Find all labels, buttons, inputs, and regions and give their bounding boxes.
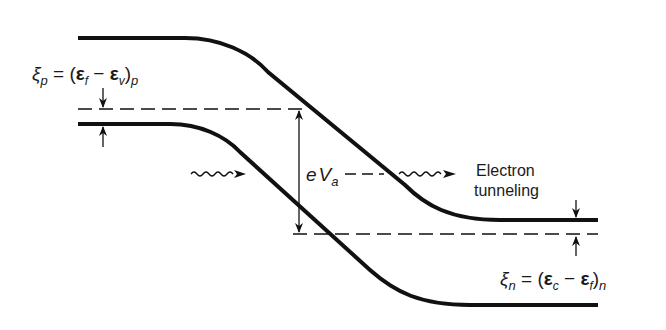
band-diagram: ξp = (εf − εv)p ξn = (εc − εf)n eVa Elec… — [0, 0, 666, 330]
xi-p-label: ξp = (εf − εv)p — [32, 63, 138, 88]
tunneling-electron-wave-icon — [399, 170, 456, 178]
electron-tunneling-label: Electron tunneling — [474, 162, 539, 199]
xi-n-label: ξn = (εc − εf)n — [500, 268, 606, 293]
incoming-electron-wave-icon — [191, 170, 246, 178]
eva-label: eVa — [306, 164, 339, 189]
